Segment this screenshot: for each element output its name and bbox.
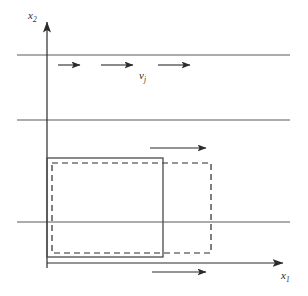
- vertical-axis-label-subscript: 2: [33, 15, 37, 24]
- displaced-configuration-rect: [52, 163, 211, 253]
- horizontal-axis-label: x1: [280, 269, 290, 284]
- velocity-label: vj: [139, 69, 146, 84]
- schematic-svg: x2 x1 vj: [0, 0, 308, 296]
- reference-configuration-rect: [47, 158, 163, 257]
- horizontal-axis-label-subscript: 1: [286, 275, 290, 284]
- stripe-lines-group: [17, 55, 290, 222]
- vertical-axis-label: x2: [27, 9, 37, 24]
- flow-arrows-group: [58, 65, 206, 272]
- diagram-canvas: x2 x1 vj: [0, 0, 308, 296]
- velocity-label-subscript: j: [143, 75, 146, 84]
